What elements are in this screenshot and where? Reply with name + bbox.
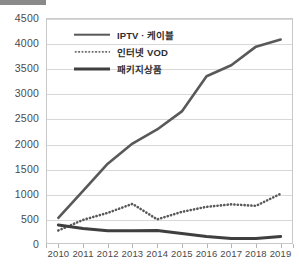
x-axis-tick — [293, 244, 294, 248]
x-axis-tick — [108, 244, 109, 248]
x-axis-tick — [182, 244, 183, 248]
x-axis-tick — [83, 244, 84, 248]
legend-label-iptv-cable: IPTV · 케이블 — [117, 28, 175, 42]
legend-label-internet-vod: 인터넷 VOD — [117, 45, 168, 59]
x-axis-tick-label: 2016 — [196, 248, 218, 259]
x-axis-tick — [281, 244, 282, 248]
legend-item-iptv-cable: IPTV · 케이블 — [74, 28, 175, 41]
x-axis-tick — [157, 244, 158, 248]
y-axis-tick-label: 0 — [33, 238, 39, 250]
x-axis-tick-label: 2011 — [72, 248, 93, 259]
y-axis-tick-labels: 050010001500200025003000350040004500 — [0, 18, 44, 244]
x-axis-tick-label: 2013 — [121, 248, 143, 259]
x-axis-tick — [46, 244, 47, 248]
x-axis-tick — [256, 244, 257, 248]
legend-item-internet-vod: 인터넷 VOD — [74, 45, 175, 58]
dotted-line-swatch-icon — [74, 47, 110, 57]
legend-label-package-product: 패키지상품 — [117, 62, 163, 76]
x-axis-tick — [58, 244, 59, 248]
line-chart-figure: 050010001500200025003000350040004500 IPT… — [0, 0, 299, 275]
x-axis-tick-label: 2014 — [146, 248, 168, 259]
chart-legend: IPTV · 케이블 인터넷 VOD 패키지상품 — [74, 28, 175, 75]
x-axis-tick-labels: 2010201120122013201420152016201720182019 — [46, 248, 293, 268]
y-axis-tick-label: 1000 — [15, 188, 39, 200]
solid-line-swatch-icon — [74, 30, 110, 40]
y-axis-tick-label: 4500 — [15, 12, 39, 24]
x-axis-tick — [132, 244, 133, 248]
x-axis-tick-label: 2010 — [47, 248, 69, 259]
x-axis-tick-label: 2012 — [97, 248, 119, 259]
legend-item-package-product: 패키지상품 — [74, 62, 175, 75]
series-line-internet-vod — [58, 194, 280, 231]
y-axis-tick-label: 4000 — [15, 37, 39, 49]
x-axis-tick-label: 2018 — [245, 248, 267, 259]
x-axis-tick-label: 2017 — [220, 248, 242, 259]
y-axis-tick-label: 2000 — [15, 138, 39, 150]
series-line-package-product — [58, 225, 280, 239]
y-axis-tick-label: 1500 — [15, 163, 39, 175]
y-axis-tick-label: 2500 — [15, 112, 39, 124]
x-axis-tick — [231, 244, 232, 248]
x-axis-tick — [207, 244, 208, 248]
y-axis-tick-label: 3000 — [15, 87, 39, 99]
x-axis-tick-label: 2015 — [171, 248, 193, 259]
scan-artifact-bar — [0, 0, 46, 5]
y-axis-tick-label: 3500 — [15, 62, 39, 74]
x-axis-tick-label: 2019 — [270, 248, 292, 259]
y-axis-tick-label: 500 — [21, 213, 39, 225]
solid-line-swatch-icon — [74, 64, 110, 74]
